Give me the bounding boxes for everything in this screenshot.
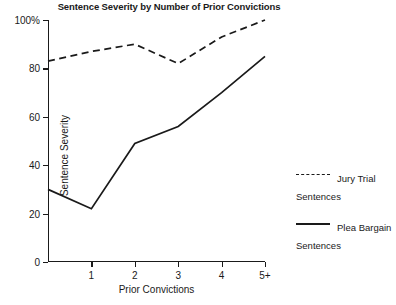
y-tick-mark (43, 262, 48, 263)
y-axis-title: Sentence Severity (59, 96, 70, 216)
y-tick-label: 100% (14, 15, 40, 26)
x-tick-mark (135, 262, 136, 267)
y-tick-label: 0 (34, 257, 40, 268)
legend-entry: Plea Bargain Sentences (296, 217, 396, 253)
plot-area: 020406080100% 12345+ Sentence Severity (48, 20, 265, 262)
chart-title: Sentence Severity by Number of Prior Con… (44, 1, 294, 12)
y-tick-label: 60 (29, 111, 40, 122)
legend-label: Jury Trial Sentences (296, 173, 376, 202)
chart-figure: Sentence Severity by Number of Prior Con… (0, 0, 396, 305)
x-tick-mark (265, 262, 266, 267)
x-tick-mark (178, 262, 179, 267)
legend-swatch-solid-icon (296, 223, 330, 225)
y-tick-label: 20 (29, 208, 40, 219)
y-tick-label: 80 (29, 63, 40, 74)
x-axis-title: Prior Convictions (48, 284, 265, 295)
x-tick-label: 1 (89, 270, 95, 281)
series-line-plea-bargain (48, 56, 265, 208)
chart-legend: Jury Trial SentencesPlea Bargain Sentenc… (296, 168, 396, 266)
x-tick-mark (91, 262, 92, 267)
y-tick-label: 40 (29, 160, 40, 171)
x-tick-mark (222, 262, 223, 267)
legend-swatch-dashed-icon (296, 174, 330, 175)
x-tick-label: 3 (175, 270, 181, 281)
x-tick-label: 4 (219, 270, 225, 281)
series-line-jury-trial (48, 20, 265, 64)
x-tick-label: 5+ (259, 270, 270, 281)
x-tick-label: 2 (132, 270, 138, 281)
legend-label: Plea Bargain Sentences (296, 222, 391, 251)
plot-lines (48, 20, 265, 262)
legend-entry: Jury Trial Sentences (296, 168, 396, 204)
